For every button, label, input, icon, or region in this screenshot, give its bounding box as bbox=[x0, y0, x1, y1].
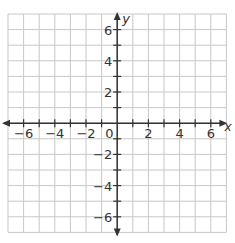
y-axis-arrow-up-icon bbox=[114, 12, 121, 20]
y-tick-label: 4 bbox=[104, 54, 112, 69]
x-tick-label: 6 bbox=[207, 126, 215, 141]
y-axis-label: y bbox=[121, 11, 130, 26]
y-tick-label: 6 bbox=[104, 23, 112, 38]
y-tick-label: −6 bbox=[93, 210, 112, 225]
y-tick-label: −4 bbox=[93, 179, 112, 194]
coordinate-plane: −6−4−2246−6−4−2246 x y 0 bbox=[0, 0, 235, 243]
x-tick-label: 2 bbox=[144, 126, 152, 141]
x-axis-label: x bbox=[223, 120, 232, 134]
y-tick-label: 2 bbox=[104, 85, 112, 100]
origin-label: 0 bbox=[105, 126, 113, 141]
x-tick-label: −4 bbox=[45, 126, 64, 141]
x-tick-label: 4 bbox=[175, 126, 183, 141]
x-tick-label: −6 bbox=[14, 126, 33, 141]
x-axis-arrow-left-icon bbox=[2, 120, 10, 127]
y-tick-label: −2 bbox=[93, 147, 112, 162]
x-tick-label: −2 bbox=[76, 126, 95, 141]
